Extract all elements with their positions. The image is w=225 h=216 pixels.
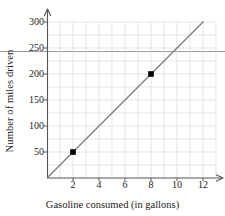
- x-tick-label: 10: [172, 180, 182, 190]
- x-tick-label: 2: [71, 180, 76, 190]
- y-tick-label: 300: [16, 17, 44, 27]
- x-tick-label: 8: [149, 180, 154, 190]
- x-axis-tick-labels: 2 4 6 8 10 12: [0, 180, 225, 194]
- y-tick-label: 200: [16, 69, 44, 79]
- gasoline-vs-miles-chart: 300 250 200 150 100 50 2 4 6 8 10 12 Num…: [0, 0, 225, 216]
- x-tick-label: 6: [123, 180, 128, 190]
- y-axis-ticks: [44, 22, 47, 152]
- x-tick-label: 4: [97, 180, 102, 190]
- y-tick-label: 150: [16, 95, 44, 105]
- y-axis: [44, 9, 51, 178]
- x-axis-title: Gasoline consumed (in gallons): [0, 199, 225, 210]
- data-point-marker: [70, 149, 76, 155]
- y-tick-label: 100: [16, 121, 44, 131]
- y-axis-title: Number of miles driven: [4, 50, 15, 153]
- y-tick-label: 250: [16, 43, 44, 53]
- y-axis-title-wrap: Number of miles driven: [0, 26, 18, 176]
- data-point-marker: [148, 71, 154, 77]
- y-tick-label: 50: [16, 147, 44, 157]
- x-tick-label: 12: [198, 180, 208, 190]
